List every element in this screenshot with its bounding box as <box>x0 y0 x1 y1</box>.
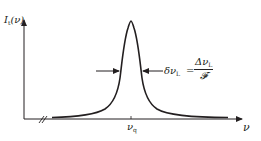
numerator-main: Δν <box>195 56 208 67</box>
lhs-main: δν <box>164 65 176 76</box>
linewidth-formula-lhs: δνL <box>164 66 180 77</box>
numerator-sub: L <box>208 61 212 68</box>
fraction-numerator: ΔνL <box>194 57 213 70</box>
y-label-arg: (ν) <box>10 14 24 25</box>
lineshape-diagram: It(ν) ν νq δνL = ΔνL 𝓕 <box>0 0 261 141</box>
linewidth-fraction: ΔνL 𝓕 <box>194 57 213 81</box>
lhs-sub: L <box>176 70 180 77</box>
tick-label-sub: q <box>133 126 137 133</box>
x-tick-label: νq <box>127 122 137 133</box>
fraction-denominator-finesse: 𝓕 <box>200 70 207 81</box>
y-axis-label: It(ν) <box>4 15 24 26</box>
x-axis-label: ν <box>243 122 250 133</box>
diagram-canvas <box>0 0 261 141</box>
